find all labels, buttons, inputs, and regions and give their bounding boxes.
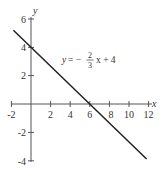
svg-text:-2: -2	[7, 109, 15, 120]
svg-text:2: 2	[21, 70, 26, 81]
svg-text:2: 2	[48, 109, 53, 120]
chart: -2 2 4 6 8 10 12 6 4 2 -2 -4 y x y = − 2…	[0, 0, 161, 175]
x-axis-label: x	[151, 98, 157, 109]
svg-text:6: 6	[87, 109, 92, 120]
svg-text:8: 8	[109, 109, 114, 120]
svg-text:= −: = −	[68, 55, 81, 65]
svg-text:-4: -4	[18, 156, 26, 167]
x-tick-labels: -2 2 4 6 8 10 12	[7, 109, 153, 120]
svg-text:y: y	[61, 55, 67, 65]
svg-text:x + 4: x + 4	[96, 55, 116, 65]
data-line	[13, 30, 146, 159]
svg-text:4: 4	[21, 42, 26, 53]
svg-text:12: 12	[144, 109, 154, 120]
y-axis-label: y	[32, 5, 38, 16]
equation-label: y = − 2 3 x + 4	[61, 51, 116, 70]
svg-text:4: 4	[68, 109, 73, 120]
svg-text:6: 6	[21, 14, 26, 25]
svg-text:2: 2	[88, 51, 92, 60]
svg-text:3: 3	[88, 61, 92, 70]
svg-text:-2: -2	[18, 127, 26, 138]
svg-text:10: 10	[124, 109, 134, 120]
